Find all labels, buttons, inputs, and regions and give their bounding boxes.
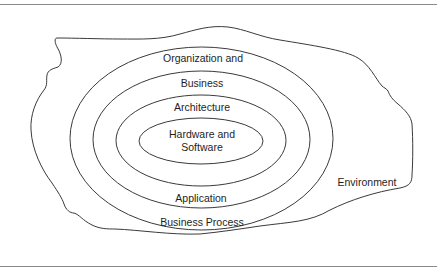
label-application: Application bbox=[175, 192, 226, 205]
label-business: Business bbox=[181, 77, 224, 90]
label-environment: Environment bbox=[338, 176, 397, 189]
label-architecture: Architecture bbox=[174, 101, 230, 114]
label-business-process: Business Process bbox=[160, 216, 243, 229]
label-software: Software bbox=[181, 141, 222, 154]
label-organization-and: Organization and bbox=[163, 52, 243, 65]
label-hardware-and: Hardware and bbox=[169, 128, 235, 141]
